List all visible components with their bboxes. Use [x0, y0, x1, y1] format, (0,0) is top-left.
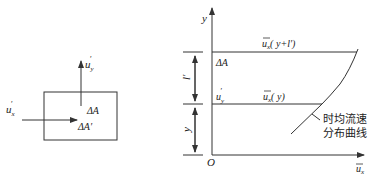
- curve-caption-line2: 分布曲线: [323, 126, 367, 140]
- x-axis-label: ux: [356, 163, 365, 176]
- y-axis-label: y: [201, 12, 207, 24]
- ux-prime-label: ux′: [6, 100, 16, 118]
- delta-a-label: ΔA: [215, 57, 229, 68]
- fluid-element-figure: ux′ uy′ ΔA ΔA′: [6, 55, 117, 140]
- svg-text:ux( y+l′): ux( y+l′): [262, 38, 296, 51]
- delta-a-prime-label: ΔA′: [77, 121, 93, 132]
- dimension-markers: l′ y: [180, 52, 203, 155]
- delta-a-label: ΔA: [86, 105, 100, 116]
- top-line-label: ux( y+l′): [262, 38, 296, 51]
- uy-prime-label: uy′: [216, 87, 225, 105]
- origin-label: O: [207, 156, 215, 168]
- uy-prime-label: uy′: [85, 55, 95, 73]
- svg-text:ux( y): ux( y): [263, 91, 285, 104]
- svg-text:ux: ux: [356, 163, 365, 176]
- caption-leader-line: [312, 114, 320, 120]
- dim-l-prime-label: l′: [180, 74, 192, 80]
- velocity-profile-figure: y O ux ux( y+l′) ux( y) ΔA uy′: [180, 8, 367, 176]
- turbulent-mixing-diagram: ux′ uy′ ΔA ΔA′ y O ux ux( y+l′) ux(: [0, 0, 377, 182]
- curve-caption-line1: 时均流速: [323, 112, 367, 126]
- dim-y-label: y: [180, 127, 192, 133]
- mid-line-label: ux( y): [263, 91, 285, 104]
